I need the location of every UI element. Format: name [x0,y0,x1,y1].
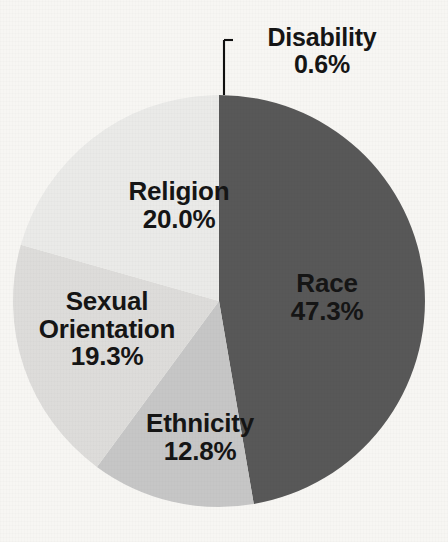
slice-label-religion: Religion 20.0% [104,178,254,233]
slice-label-ethnicity-name: Ethnicity [120,410,280,438]
slice-label-disability-value: 0.6% [232,51,412,78]
slice-label-ethnicity-value: 12.8% [120,438,280,466]
slice-label-sexual-orientation: Sexual Orientation 19.3% [22,288,192,371]
slice-label-race: Race 47.3% [252,270,402,325]
pie-chart-page: Race 47.3% Ethnicity 12.8% Sexual Orient… [0,0,448,542]
slice-label-sexual-orientation-name-line1: Sexual [22,288,192,316]
slice-label-sexual-orientation-value: 19.3% [22,343,192,371]
slice-label-ethnicity: Ethnicity 12.8% [120,410,280,465]
slice-label-sexual-orientation-name-line2: Orientation [22,316,192,344]
slice-label-disability: Disability 0.6% [232,24,412,77]
slice-label-religion-name: Religion [104,178,254,206]
slice-label-race-value: 47.3% [252,298,402,326]
slice-label-religion-value: 20.0% [104,206,254,234]
slice-label-race-name: Race [252,270,402,298]
slice-label-disability-name: Disability [232,24,412,51]
